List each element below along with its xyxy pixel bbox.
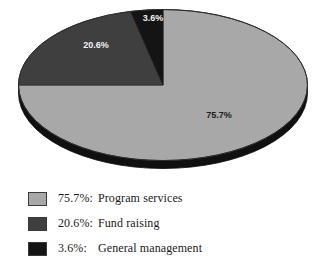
pie-chart-svg: 75.7% 20.6% 3.6% — [0, 0, 319, 180]
pie-label-fund-raising: 20.6% — [83, 40, 109, 50]
legend-name-program-services: Program services — [98, 191, 183, 205]
legend-label-program-services: 75.7%:Program services — [58, 191, 183, 206]
legend-percent-fund-raising: 20.6%: — [58, 216, 98, 231]
legend-item-general-management[interactable]: 3.6%:General management — [28, 236, 308, 261]
legend-percent-general-management: 3.6%: — [58, 241, 98, 256]
legend-swatch-general-management — [28, 242, 47, 256]
legend-name-general-management: General management — [98, 241, 202, 255]
pie-label-general-management: 3.6% — [143, 13, 164, 23]
pie-label-program-services: 75.7% — [206, 110, 232, 120]
legend-name-fund-raising: Fund raising — [98, 216, 160, 230]
chart-legend: 75.7%:Program services 20.6%:Fund raisin… — [28, 186, 308, 261]
legend-swatch-fund-raising — [28, 217, 47, 231]
pie-chart-plot-area: 75.7% 20.6% 3.6% — [0, 0, 319, 180]
legend-item-fund-raising[interactable]: 20.6%:Fund raising — [28, 211, 308, 236]
legend-item-program-services[interactable]: 75.7%:Program services — [28, 186, 308, 211]
pie-chart-figure: 75.7% 20.6% 3.6% 75.7%:Program services … — [0, 0, 319, 271]
legend-label-general-management: 3.6%:General management — [58, 241, 202, 256]
legend-swatch-program-services — [28, 192, 47, 206]
legend-label-fund-raising: 20.6%:Fund raising — [58, 216, 160, 231]
pie-slices — [18, 10, 307, 161]
legend-percent-program-services: 75.7%: — [58, 191, 98, 206]
